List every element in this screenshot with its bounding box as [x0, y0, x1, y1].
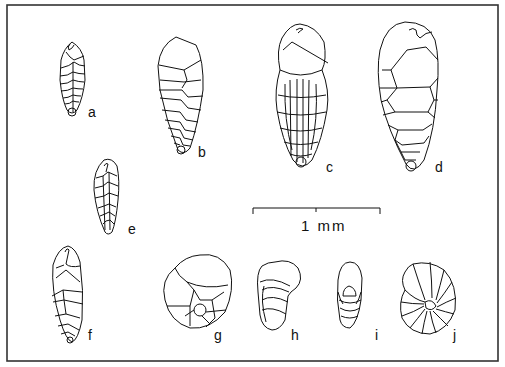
- specimen-f-label: f: [88, 328, 92, 342]
- specimen-i-drawing: [337, 262, 362, 328]
- specimen-j-drawing: [401, 262, 456, 334]
- specimen-i-label: i: [375, 328, 378, 342]
- specimen-g-drawing: [164, 255, 232, 329]
- specimen-g-label: g: [214, 328, 222, 342]
- plate-border: [7, 5, 498, 361]
- specimen-h-drawing: [258, 261, 301, 330]
- scale-bar: [253, 208, 380, 214]
- specimen-b-label: b: [198, 145, 206, 159]
- specimen-d-label: d: [435, 160, 443, 174]
- specimen-e-label: e: [128, 222, 136, 236]
- specimen-j-label: j: [453, 328, 456, 342]
- scale-bar-label: 1 mm: [301, 218, 347, 233]
- specimen-plate: [0, 0, 505, 367]
- specimen-c-drawing: [276, 24, 328, 167]
- specimen-f-drawing: [52, 246, 83, 343]
- specimen-d-drawing: [378, 22, 438, 171]
- specimen-b-drawing: [158, 37, 203, 154]
- specimen-h-label: h: [291, 328, 299, 342]
- specimen-e-drawing: [94, 159, 119, 234]
- specimen-a-drawing: [60, 42, 85, 116]
- specimen-c-label: c: [326, 160, 333, 174]
- specimen-a-label: a: [88, 105, 96, 119]
